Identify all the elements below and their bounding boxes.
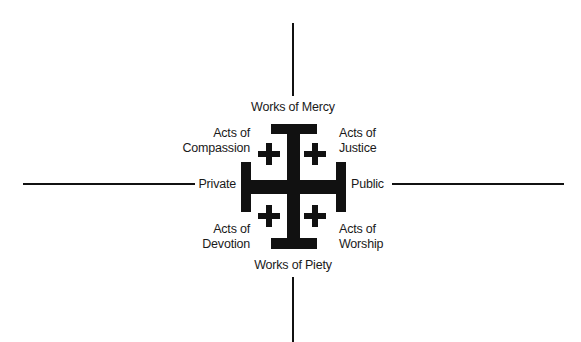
label-acts-of-worship: Acts of Worship	[339, 222, 383, 252]
label-line: Acts of	[339, 222, 383, 237]
label-line: Acts of	[339, 126, 377, 141]
jerusalem-cross-icon	[0, 0, 581, 342]
label-line: Justice	[339, 141, 377, 156]
small-cross-bottom-right	[304, 205, 326, 227]
small-cross-top-left	[258, 143, 280, 165]
label-works-of-piety: Works of Piety	[254, 258, 332, 273]
label-public: Public	[351, 177, 384, 192]
label-acts-of-devotion: Acts of Devotion	[202, 222, 250, 252]
label-line: Devotion	[202, 237, 250, 252]
label-acts-of-justice: Acts of Justice	[339, 126, 377, 156]
label-line: Acts of	[202, 222, 250, 237]
label-private: Private	[198, 177, 236, 192]
label-line: Compassion	[183, 141, 250, 156]
label-line: Acts of	[183, 126, 250, 141]
label-acts-of-compassion: Acts of Compassion	[183, 126, 250, 156]
small-cross-bottom-left	[258, 205, 280, 227]
label-line: Worship	[339, 237, 383, 252]
small-cross-top-right	[304, 143, 326, 165]
label-works-of-mercy: Works of Mercy	[251, 100, 335, 115]
